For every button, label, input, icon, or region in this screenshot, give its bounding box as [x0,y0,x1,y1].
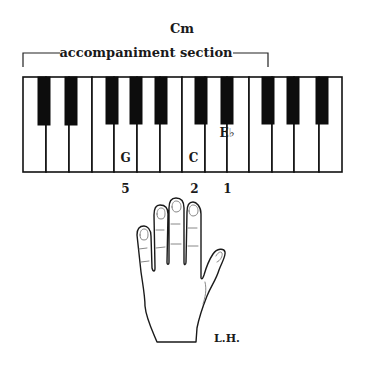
black-key-c-sharp-2[interactable] [195,77,207,124]
section-label: accompaniment section [59,45,233,60]
hand-label: L.H. [214,332,240,345]
black-key-d-sharp[interactable] [65,77,77,125]
black-key-e-flat[interactable] [221,77,233,124]
black-key-a-sharp-2[interactable] [316,77,328,124]
chord-name: Cm [170,21,194,36]
finger-number-c: 2 [190,182,198,196]
piano-keyboard [23,77,342,172]
black-key-c-sharp[interactable] [38,77,50,125]
note-label-c: C [189,151,199,165]
black-key-f-sharp-2[interactable] [262,77,274,124]
finger-number-e-flat: 1 [223,182,231,196]
finger-number-g: 5 [121,182,129,196]
black-key-a-sharp[interactable] [155,77,167,124]
black-key-g-sharp[interactable] [130,77,142,124]
note-label-e-flat: E♭ [220,126,235,140]
note-label-g: G [120,151,130,165]
black-key-f-sharp[interactable] [106,77,118,124]
black-key-g-sharp-2[interactable] [287,77,299,124]
left-hand-icon [137,198,225,342]
piano-chord-diagram: Cm accompaniment section G C [0,0,365,365]
